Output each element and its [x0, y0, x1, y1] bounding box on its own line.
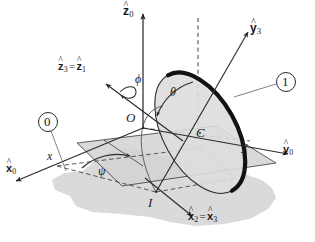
label-body-number-0: 0: [44, 115, 51, 128]
hat-accent-y0: ^: [284, 139, 288, 148]
label-angle-psi: ψ: [98, 165, 105, 177]
hat-accent-y3: ^: [251, 17, 256, 27]
hat-accent-z1: ^: [77, 56, 81, 65]
label-coordinate-y: y: [242, 140, 247, 152]
hat-accent-z3: ^: [59, 56, 63, 65]
label-x3-subscript: 3: [213, 215, 217, 224]
label-z1-subscript: 1: [82, 65, 86, 74]
label-x2-subscript: 2: [194, 215, 198, 224]
angle-arc-phi: [120, 87, 136, 98]
label-z0-axis: ^z0: [123, 5, 133, 19]
label-z0-subscript: 0: [129, 9, 133, 19]
leader-line-body1: [234, 84, 276, 97]
figure-canvas: ^z0 ^z3=^z1 ϕ ^y3 1 θ O C 0 x y ^x0 ^y0 …: [0, 0, 315, 242]
label-x0-subscript: 0: [12, 167, 16, 176]
label-point-O: O: [126, 111, 135, 124]
hat-accent-x3: ^: [208, 206, 212, 215]
label-point-I: I: [148, 196, 152, 209]
hat-accent-x2: ^: [189, 206, 193, 215]
hat-accent-x0: ^: [7, 158, 11, 167]
label-y0-subscript: 0: [289, 148, 293, 157]
label-y3-axis: ^y3: [250, 22, 261, 36]
label-equals-sign-z: =: [69, 60, 75, 72]
label-coordinate-x: x: [47, 150, 52, 162]
label-z3-subscript: 3: [64, 65, 68, 74]
hat-accent-z0: ^: [124, 0, 129, 10]
label-y0-axis: ^y0: [283, 144, 293, 157]
label-angle-phi: ϕ: [135, 73, 141, 85]
label-x2-equals-x3: ^x2=^x3: [188, 211, 217, 224]
label-body-number-1: 1: [282, 75, 289, 88]
label-x0-axis: ^x0: [6, 163, 16, 176]
label-y3-subscript: 3: [257, 26, 261, 36]
label-angle-theta: θ: [170, 86, 176, 98]
label-equals-sign-x: =: [200, 210, 206, 222]
label-z3-equals-z1: ^z3=^z1: [58, 61, 86, 74]
label-point-C: C: [196, 126, 205, 139]
